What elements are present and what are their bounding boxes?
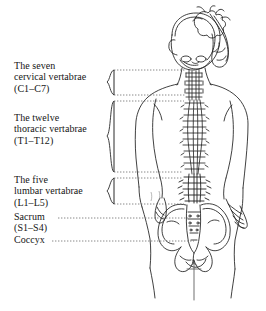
thoracic-connector bbox=[107, 101, 184, 172]
lumbar-connector bbox=[107, 178, 184, 204]
ponytail-icon bbox=[193, 6, 230, 67]
cervical-spine bbox=[185, 70, 203, 100]
cervical-label-line-1: The seven bbox=[14, 60, 86, 71]
coccyx-label-line-1: Coccyx bbox=[14, 234, 45, 245]
pelvis-outline bbox=[158, 204, 230, 272]
skull-outline bbox=[169, 13, 220, 70]
neck-outline bbox=[177, 68, 211, 85]
lumbar-spine bbox=[178, 174, 211, 203]
coccyx-label: Coccyx bbox=[14, 234, 45, 245]
cervical-vertebrae-label: The seven cervical vertabrae (C1–C7) bbox=[14, 60, 86, 94]
plumb-line bbox=[187, 262, 201, 300]
sacrum-label: Sacrum (S1–S4) bbox=[14, 211, 47, 234]
lumbar-label-line-2: lumbar vertabrae bbox=[14, 185, 83, 196]
spine-diagram-figure: The seven cervical vertabrae (C1–C7) The… bbox=[0, 0, 266, 311]
cervical-connector bbox=[107, 70, 186, 95]
torso-outline bbox=[135, 84, 248, 298]
left-hand bbox=[155, 198, 166, 223]
sacrum-label-line-1: Sacrum bbox=[14, 211, 47, 222]
thoracic-label-line-3: (T1–T12) bbox=[14, 135, 87, 146]
thoracic-label-line-1: The twelve bbox=[14, 112, 87, 123]
cervical-label-line-2: cervical vertabrae bbox=[14, 71, 86, 82]
thoracic-spine bbox=[180, 100, 209, 174]
thoracic-label-line-2: thoracic vertabrae bbox=[14, 123, 87, 134]
lumbar-label-line-1: The five bbox=[14, 174, 83, 185]
lumbar-label-line-3: (L1–L5) bbox=[14, 197, 83, 208]
right-hand bbox=[226, 199, 247, 228]
label-connectors bbox=[0, 0, 266, 311]
shading-marks bbox=[151, 191, 160, 201]
thoracic-vertebrae-label: The twelve thoracic vertabrae (T1–T12) bbox=[14, 112, 87, 146]
anatomical-line-art bbox=[0, 0, 266, 311]
lumbar-vertebrae-label: The five lumbar vertabrae (L1–L5) bbox=[14, 174, 83, 208]
cervical-label-line-3: (C1–C7) bbox=[14, 83, 86, 94]
sacrum-label-line-2: (S1–S4) bbox=[14, 222, 47, 233]
